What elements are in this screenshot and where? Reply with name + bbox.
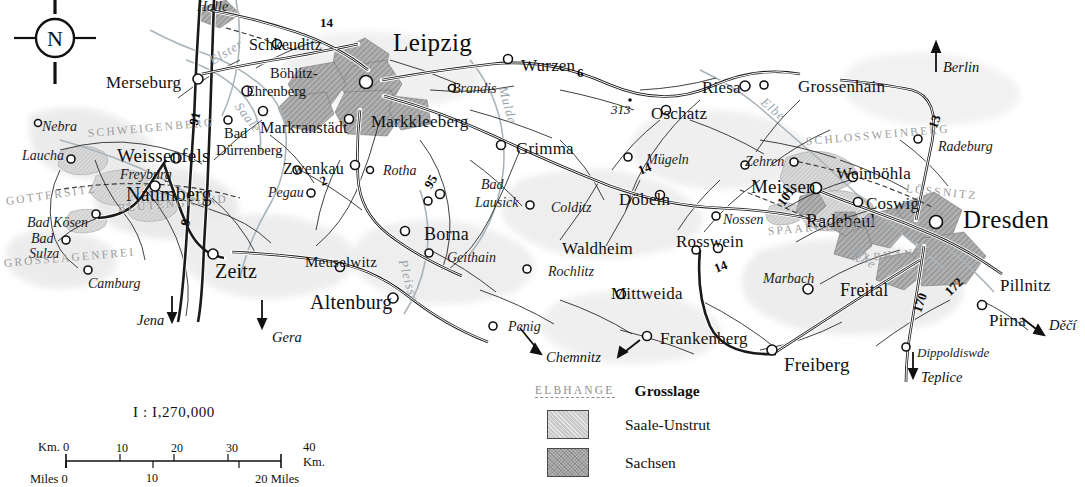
city-label-meuselwitz: Meuselwitz [305,255,377,270]
city-label-weinbohla: Weinböhla [836,165,911,182]
road-number-14-leipzig: 14 [320,16,333,29]
legend-row-saale-unstrut: Saale-Unstrut [547,410,710,439]
map-legend: ELBHANGE Grosslage Saale-Unstrut Sachsen [535,378,865,484]
legend-label-grosslage: Grosslage [635,382,700,400]
place-label-muegeln: Mügeln [646,153,689,167]
place-label-camburg: Camburg [88,277,140,291]
direction-label-chemnitz: Chemnitz [546,350,601,365]
city-label-frankenberg: Frankenberg [660,330,748,347]
place-label-colditz: Colditz [551,201,591,215]
spot-height-label-313: 313 [611,103,631,116]
city-label-grossenhain: Grossenhain [798,78,885,95]
place-label-bad: Bad [31,232,54,246]
place-label-lausick: Lausick [475,196,519,210]
scale-bar-graphic [18,404,338,484]
place-label-brandis: Brandis [452,82,496,96]
compass-north-label: N [47,26,63,51]
city-label-schkeuditz: Schkeuditz [249,37,322,53]
city-label-dresden: Dresden [963,207,1049,232]
place-label-zehren: Zehren [745,155,784,169]
direction-label-jena: Jena [137,313,164,328]
city-label-grimma: Grimma [516,140,574,157]
road-number-6: 6 [577,66,584,79]
legend-swatch-sachsen [547,448,589,477]
city-label-borna: Borna [424,225,469,243]
city-label-bad: Bad [224,126,247,141]
city-label-ehrenberg: Ehrenberg [246,84,306,99]
legend-sample-grosslage: ELBHANGE [535,384,615,398]
city-label-coswig: Coswig [866,195,919,212]
legend-row-sachsen: Sachsen [547,448,676,477]
city-label-markkleeberg: Markkleeberg [371,113,468,130]
city-label-wurzen: Wurzen [521,57,575,74]
place-label-marbach: Marbach [763,272,814,286]
place-label-pegau: Pegau [268,186,304,200]
place-label-freyburg: Freyburg [120,168,172,182]
city-label-rosswein: Rosswein [676,233,744,250]
legend-label-saale-unstrut: Saale-Unstrut [625,416,710,434]
legend-swatch-saale-unstrut [547,410,589,439]
place-label-radeburg: Radeburg [938,140,993,154]
direction-label-berlin: Berlin [943,60,979,75]
city-label-zeitz: Zeitz [215,261,257,281]
city-label-mittweida: Mittweida [611,285,683,302]
city-label-waldheim: Waldheim [562,240,633,257]
direction-label-decin: Děčí [1049,318,1076,333]
city-label-pirna: Pirna [989,312,1026,329]
place-label-bad-koesen: Bad Kösen [27,216,88,230]
city-label-duerrenberg: Dürrenberg [216,143,283,158]
city-label-zwenkau: Zwenkau [283,161,344,177]
city-label-altenburg: Altenburg [310,292,393,312]
city-label-boehlitz: Böhlitz- [270,66,318,81]
place-label-rochlitz: Rochlitz [548,265,594,279]
city-label-freiberg: Freiberg [784,355,850,374]
scale-bar: I : I,270,000 Km. 0 40 Km. Miles 0 20 Mi… [18,404,338,484]
city-label-oschatz: Oschatz [651,105,707,122]
city-label-weissenfels: Weissenfels [117,146,209,165]
place-label-laucha: Laucha [22,149,64,163]
city-label-merseburg: Merseburg [106,74,181,91]
city-label-doebeln: Döbeln [619,191,670,208]
road-number-91: 91 [187,111,202,126]
place-label-nebra: Nebra [42,120,77,134]
compass-rose: N [14,0,96,84]
city-label-markranstaedt: Markranstädt [260,120,348,136]
city-label-leipzig: Leipzig [393,30,472,55]
place-label-nossen: Nossen [723,213,763,227]
city-label-pillnitz: Pillnitz [1000,277,1051,294]
place-label-dippoldiswalde: Dippoldiswde [917,346,989,359]
place-label-penig: Penig [508,320,541,334]
city-label-riesa: Riesa [702,79,741,96]
direction-label-gera: Gera [272,330,302,345]
place-label-halle: Halle [197,0,228,14]
place-label-rotha: Rotha [383,164,416,178]
place-label-bad2: Bad [481,178,504,192]
direction-label-teplice: Teplice [921,370,962,385]
city-label-freital: Freital [840,281,888,299]
legend-label-sachsen: Sachsen [625,454,676,472]
map-root: N Leipzig Dresden Merseburg Weissenfels … [0,0,1085,487]
legend-row-grosslage: ELBHANGE Grosslage [535,382,700,400]
place-label-geithain: Geithain [447,251,496,265]
